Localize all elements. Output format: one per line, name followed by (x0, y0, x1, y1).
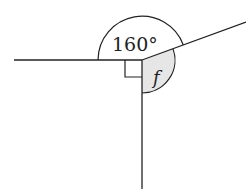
angle-160-label: 160° (112, 33, 158, 55)
right-angle-marker (125, 60, 142, 77)
angle-diagram: 160° f (0, 0, 246, 189)
diagram-canvas: 160° f (0, 0, 246, 189)
